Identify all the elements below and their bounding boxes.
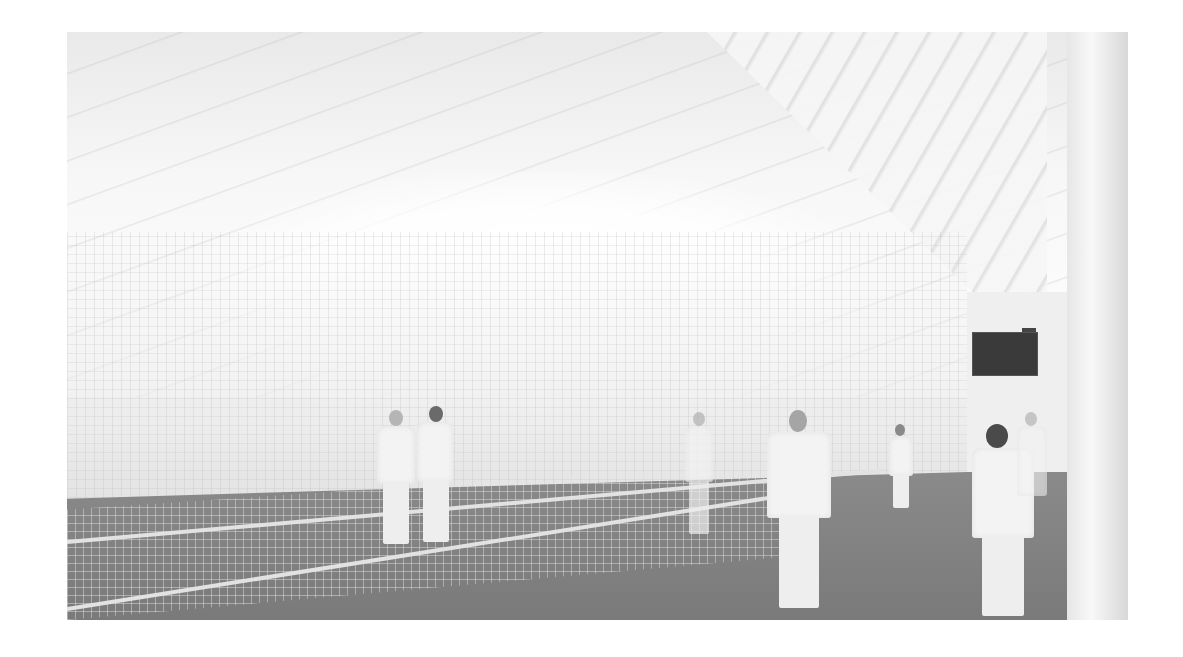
cricket-nets-photo — [67, 32, 1128, 620]
pillar — [1067, 32, 1128, 620]
scoreboard — [972, 332, 1038, 376]
